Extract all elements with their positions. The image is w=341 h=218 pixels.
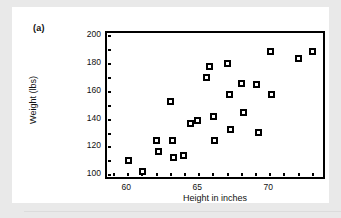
y-axis-tick-labels: 100120140160180200	[67, 31, 101, 179]
x-axis-tick-label: 65	[193, 182, 202, 192]
data-point	[153, 137, 160, 144]
x-axis-tick-label: 60	[122, 182, 131, 192]
data-point	[169, 137, 176, 144]
data-point	[224, 60, 231, 67]
y-axis-tick	[108, 91, 111, 93]
data-point	[255, 129, 262, 136]
data-point	[203, 74, 210, 81]
data-point	[238, 80, 245, 87]
data-point	[226, 91, 233, 98]
plot-area	[107, 33, 323, 177]
x-axis-tick	[141, 173, 143, 176]
x-axis-tick	[312, 173, 314, 176]
x-axis-tick	[184, 173, 186, 176]
data-point	[240, 109, 247, 116]
panel-label: (a)	[33, 23, 45, 33]
x-axis-tick	[198, 173, 200, 176]
data-point	[170, 154, 177, 161]
data-point	[206, 63, 213, 70]
y-axis-tick-label: 140	[87, 113, 101, 123]
y-axis-tick	[108, 119, 111, 121]
x-axis-tick	[127, 173, 129, 176]
y-axis-tick	[108, 77, 111, 79]
data-point	[227, 126, 234, 133]
x-axis-tick	[156, 173, 158, 176]
x-axis-tick	[113, 173, 115, 176]
y-axis-tick	[108, 133, 111, 135]
data-point	[253, 81, 260, 88]
y-axis-tick-label: 120	[87, 140, 101, 150]
data-point	[267, 48, 274, 55]
x-axis-tick	[241, 173, 243, 176]
y-axis-tick	[108, 174, 111, 176]
x-axis-tick	[269, 173, 271, 176]
data-point	[268, 91, 275, 98]
x-axis-tick	[212, 173, 214, 176]
y-axis-tick	[108, 49, 111, 51]
y-axis-tick	[108, 146, 111, 148]
x-axis-tick	[298, 173, 300, 176]
y-axis-tick	[108, 105, 111, 107]
figure-card: (a) Weight (lbs) 100120140160180200 6065…	[12, 7, 329, 203]
y-axis-tick-label: 160	[87, 85, 101, 95]
y-axis-tick-label: 180	[87, 57, 101, 67]
data-point	[194, 117, 201, 124]
y-axis-title: Weight (lbs)	[28, 60, 38, 140]
data-point	[187, 120, 194, 127]
x-axis-tick	[170, 173, 172, 176]
data-point	[295, 55, 302, 62]
data-point	[309, 48, 316, 55]
data-point	[155, 148, 162, 155]
data-point	[210, 113, 217, 120]
y-axis-tick	[108, 160, 111, 162]
x-axis-tick	[227, 173, 229, 176]
data-point	[211, 137, 218, 144]
x-axis-title: Height in inches	[105, 193, 325, 203]
x-axis-tick	[255, 173, 257, 176]
bottom-divider	[24, 211, 341, 212]
data-point	[180, 152, 187, 159]
plot-frame	[105, 31, 325, 179]
y-axis-tick	[108, 63, 111, 65]
y-axis-tick	[108, 35, 111, 37]
x-axis-tick-label: 70	[263, 182, 272, 192]
y-axis-tick-label: 200	[87, 29, 101, 39]
x-axis-tick	[283, 173, 285, 176]
data-point	[167, 98, 174, 105]
y-axis-tick-label: 100	[87, 168, 101, 178]
data-point	[125, 157, 132, 164]
